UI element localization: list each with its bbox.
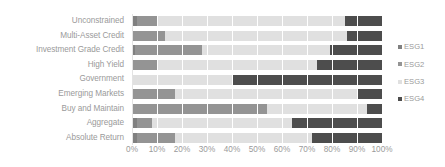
- bar-segment-esg4[interactable]: [232, 75, 382, 85]
- stacked-bar[interactable]: [132, 45, 382, 55]
- bar-segment-esg3[interactable]: [267, 104, 367, 114]
- value-tick-label: 10%: [149, 146, 165, 154]
- bar-row: [132, 116, 382, 131]
- bar-segment-esg3[interactable]: [202, 45, 330, 55]
- bar-row: [132, 101, 382, 116]
- bar-segment-esg4[interactable]: [330, 45, 383, 55]
- bar-segment-esg3[interactable]: [152, 118, 292, 128]
- category-label: Absolute Return: [0, 131, 128, 146]
- stacked-bar[interactable]: [132, 133, 382, 143]
- bar-segment-esg2[interactable]: [137, 16, 157, 26]
- value-tick-label: 0%: [126, 146, 138, 154]
- legend-swatch-icon: [398, 45, 402, 49]
- bar-segment-esg4[interactable]: [292, 118, 382, 128]
- category-label: Aggregate: [0, 116, 128, 131]
- bar-segment-esg4[interactable]: [367, 104, 382, 114]
- category-label: High Yield: [0, 58, 128, 73]
- bar-segment-esg2[interactable]: [137, 133, 175, 143]
- legend-label: ESG4: [404, 95, 424, 103]
- bar-segment-esg4[interactable]: [345, 16, 383, 26]
- category-axis-labels: UnconstrainedMulti-Asset CreditInvestmen…: [0, 14, 128, 145]
- value-tick-label: 30%: [199, 146, 215, 154]
- value-tick-label: 80%: [324, 146, 340, 154]
- stacked-bar[interactable]: [132, 16, 382, 26]
- bar-segment-esg3[interactable]: [165, 31, 348, 41]
- stacked-bar[interactable]: [132, 118, 382, 128]
- bar-segment-esg4[interactable]: [357, 89, 382, 99]
- category-label: Emerging Markets: [0, 87, 128, 102]
- stacked-bar[interactable]: [132, 75, 382, 85]
- legend-item-esg3[interactable]: ESG3: [398, 77, 445, 87]
- stacked-bar[interactable]: [132, 31, 382, 41]
- bar-row: [132, 72, 382, 87]
- stacked-bar[interactable]: [132, 104, 382, 114]
- bar-segment-esg2[interactable]: [132, 104, 267, 114]
- stacked-bar[interactable]: [132, 89, 382, 99]
- category-label: Multi-Asset Credit: [0, 29, 128, 44]
- bar-segment-esg4[interactable]: [347, 31, 382, 41]
- legend-item-esg2[interactable]: ESG2: [398, 59, 445, 69]
- legend-item-esg4[interactable]: ESG4: [398, 94, 445, 104]
- bar-row: [132, 14, 382, 29]
- legend-label: ESG2: [404, 61, 424, 69]
- gridline: [382, 14, 383, 145]
- category-label: Government: [0, 72, 128, 87]
- legend-label: ESG1: [404, 43, 424, 51]
- bar-segment-esg3[interactable]: [157, 60, 317, 70]
- value-tick-label: 70%: [299, 146, 315, 154]
- chart-legend: ESG1ESG2ESG3ESG4: [398, 42, 445, 104]
- legend-item-esg1[interactable]: ESG1: [398, 42, 445, 52]
- bar-segment-esg3[interactable]: [175, 133, 313, 143]
- category-label: Investment Grade Credit: [0, 43, 128, 58]
- stacked-bar[interactable]: [132, 60, 382, 70]
- bar-segment-esg2[interactable]: [137, 118, 152, 128]
- category-label: Unconstrained: [0, 14, 128, 29]
- bar-segment-esg2[interactable]: [132, 89, 175, 99]
- bar-row: [132, 87, 382, 102]
- value-tick-label: 90%: [349, 146, 365, 154]
- stacked-bar-chart: UnconstrainedMulti-Asset CreditInvestmen…: [0, 0, 445, 167]
- legend-swatch-icon: [398, 97, 402, 101]
- bar-segment-esg3[interactable]: [132, 75, 232, 85]
- bar-row: [132, 43, 382, 58]
- bar-rows: [132, 14, 382, 145]
- bar-segment-esg4[interactable]: [312, 133, 382, 143]
- bar-row: [132, 131, 382, 146]
- legend-swatch-icon: [398, 80, 402, 84]
- bar-segment-esg4[interactable]: [317, 60, 382, 70]
- bar-row: [132, 29, 382, 44]
- bar-segment-esg2[interactable]: [132, 31, 165, 41]
- category-label: Buy and Maintain: [0, 101, 128, 116]
- legend-swatch-icon: [398, 62, 402, 66]
- bar-segment-esg2[interactable]: [132, 60, 157, 70]
- bar-segment-esg3[interactable]: [175, 89, 358, 99]
- bar-row: [132, 58, 382, 73]
- value-axis-labels: 0%10%20%30%40%50%60%70%80%90%100%: [132, 146, 382, 160]
- value-tick-label: 100%: [372, 146, 393, 154]
- value-tick-label: 50%: [249, 146, 265, 154]
- bar-segment-esg2[interactable]: [135, 45, 203, 55]
- plot-area: [132, 14, 382, 145]
- value-tick-label: 60%: [274, 146, 290, 154]
- value-tick-label: 20%: [174, 146, 190, 154]
- bar-segment-esg3[interactable]: [157, 16, 345, 26]
- legend-label: ESG3: [404, 78, 424, 86]
- value-tick-label: 40%: [224, 146, 240, 154]
